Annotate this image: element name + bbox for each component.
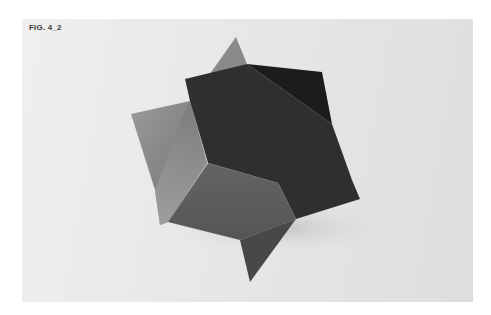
figure-caption: FIG. 4_2 [29,23,62,32]
paper-polyhedron [0,0,491,315]
